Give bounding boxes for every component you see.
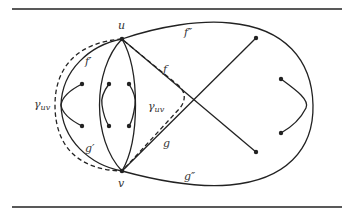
vertex-u <box>120 37 125 42</box>
endpoint-dot <box>279 131 283 135</box>
edge-f-prime <box>61 39 122 105</box>
arc-inner-left <box>102 84 109 126</box>
crossing-arc-right <box>281 79 307 133</box>
label-u: u <box>118 19 125 32</box>
label-gamma-uv-center: γuv <box>148 100 165 114</box>
graph-diagram: u v f g f′ g′ f″ g″ γuv γuv <box>0 0 354 209</box>
edge-g-prime <box>61 105 122 171</box>
endpoint-dot <box>127 124 131 128</box>
label-g-prime: g′ <box>85 142 95 155</box>
label-f-prime: f′ <box>84 55 92 68</box>
endpoint-dot <box>80 124 84 128</box>
edge-g <box>122 38 256 171</box>
vertex-v <box>120 169 125 174</box>
endpoint-dot <box>80 82 84 86</box>
endpoint-dot <box>279 77 283 81</box>
label-f: f <box>162 63 169 76</box>
label-f-double-prime: f″ <box>183 26 193 39</box>
lens-right <box>122 39 136 171</box>
endpoint-dot <box>107 124 111 128</box>
lens-left <box>100 39 123 171</box>
label-g: g <box>163 137 170 150</box>
arc-inner-right <box>129 84 135 126</box>
endpoint-dot <box>107 82 111 86</box>
label-v: v <box>118 177 125 190</box>
endpoint-dot <box>254 150 258 154</box>
label-gamma-uv-left: γuv <box>34 98 51 112</box>
label-g-double-prime: g″ <box>184 170 196 183</box>
arc-left <box>61 84 82 126</box>
endpoint-dot <box>127 82 131 86</box>
edge-g-double-prime <box>122 105 313 186</box>
endpoint-dot <box>254 36 258 40</box>
